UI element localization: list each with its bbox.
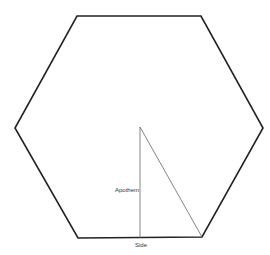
- apothem-label: Apothem: [115, 187, 139, 193]
- radius-line: [140, 127, 202, 237]
- hexagon-outline: [15, 16, 263, 238]
- hexagon-diagram: [0, 0, 270, 255]
- side-label: Side: [135, 242, 147, 248]
